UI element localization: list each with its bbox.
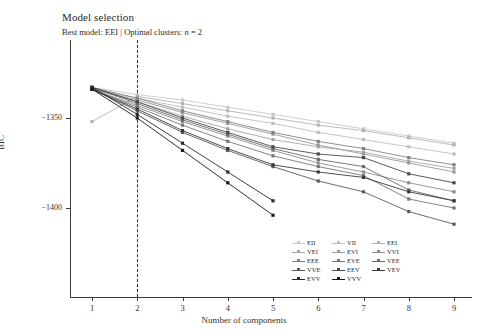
series-marker: [271, 138, 274, 141]
legend-item-eei[interactable]: EEI: [372, 239, 412, 247]
series-vev: [90, 88, 455, 203]
series-marker: [271, 122, 274, 125]
y-tick-label: −1400: [22, 203, 62, 212]
series-marker: [181, 116, 184, 119]
series-marker: [226, 109, 229, 112]
series-line: [92, 87, 454, 164]
legend-label: EVI: [347, 248, 358, 256]
series-marker: [362, 176, 365, 179]
legend-item-vei[interactable]: VEI: [292, 248, 332, 256]
series-marker: [317, 179, 320, 182]
series-marker: [317, 120, 320, 123]
series-marker: [181, 120, 184, 123]
series-marker: [226, 134, 229, 137]
series-marker: [226, 140, 229, 143]
series-marker: [90, 88, 93, 91]
x-tick-label: 9: [444, 303, 464, 313]
series-line: [92, 87, 454, 143]
series-line: [92, 87, 454, 200]
x-tick-label: 2: [127, 303, 147, 313]
series-marker: [90, 86, 93, 89]
chart-subtitle: Best model: EEI | Optimal clusters: n = …: [62, 27, 202, 37]
x-tick-label: 1: [82, 303, 102, 313]
x-tick-label: 8: [399, 303, 419, 313]
series-marker: [181, 111, 184, 114]
series-marker: [271, 199, 274, 202]
series-marker: [271, 145, 274, 148]
series-marker: [90, 88, 93, 91]
series-line: [92, 89, 454, 224]
series-marker: [362, 156, 365, 159]
series-marker: [226, 181, 229, 184]
series-marker: [407, 156, 410, 159]
legend-label: EII: [307, 239, 315, 247]
x-tick-label: 6: [308, 303, 328, 313]
legend-item-vee[interactable]: VEE: [372, 257, 412, 265]
series-marker: [362, 170, 365, 173]
x-tick-label: 5: [263, 303, 283, 313]
series-vii: [90, 88, 455, 156]
series-marker: [317, 140, 320, 143]
legend-item-vev[interactable]: VEV: [372, 266, 412, 274]
series-marker: [407, 190, 410, 193]
x-tick-mark: [228, 297, 229, 301]
series-marker: [407, 161, 410, 164]
series-marker: [362, 165, 365, 168]
subtitle-suffix: = 2: [189, 27, 202, 37]
series-vve: [90, 88, 455, 226]
series-marker: [271, 214, 274, 217]
series-marker: [317, 165, 320, 168]
series-vee: [90, 86, 455, 203]
legend-item-eev[interactable]: EEV: [332, 266, 372, 274]
series-marker: [90, 86, 93, 89]
series-marker: [271, 165, 274, 168]
series-marker: [407, 197, 410, 200]
legend-item-vve[interactable]: VVE: [292, 266, 332, 274]
series-marker: [362, 151, 365, 154]
legend-swatch-icon: [292, 267, 305, 274]
legend-label: VII: [347, 239, 356, 247]
legend-item-evv[interactable]: EVV: [292, 275, 332, 283]
legend-item-vvv[interactable]: VVV: [332, 275, 372, 283]
series-marker: [90, 86, 93, 89]
series-marker: [271, 154, 274, 157]
series-evv: [90, 86, 274, 203]
series-marker: [90, 120, 93, 123]
series-marker: [317, 131, 320, 134]
series-marker: [407, 188, 410, 191]
legend-item-vii[interactable]: VII: [332, 239, 372, 247]
legend-item-eii[interactable]: EII: [292, 239, 332, 247]
series-line: [92, 96, 454, 145]
y-tick-mark: [66, 118, 70, 119]
legend-item-vvi[interactable]: VVI: [372, 248, 412, 256]
x-tick-label: 3: [173, 303, 193, 313]
series-marker: [407, 145, 410, 148]
chart-canvas: Model selection Best model: EEI | Optima…: [0, 0, 488, 334]
series-marker: [226, 120, 229, 123]
series-marker: [226, 170, 229, 173]
series-marker: [407, 136, 410, 139]
series-marker: [271, 113, 274, 116]
legend-swatch-icon: [372, 240, 385, 247]
x-tick-mark: [409, 297, 410, 301]
series-marker: [362, 152, 365, 155]
series-marker: [271, 147, 274, 150]
legend-item-evi[interactable]: EVI: [332, 248, 372, 256]
legend-swatch-icon: [292, 276, 305, 283]
series-marker: [181, 109, 184, 112]
series-marker: [452, 223, 455, 226]
series-marker: [90, 88, 93, 91]
series-evi: [90, 88, 455, 174]
series-marker: [90, 86, 93, 89]
x-tick-label: 7: [354, 303, 374, 313]
y-axis-spine: [70, 40, 71, 297]
series-marker: [317, 145, 320, 148]
legend-item-eve[interactable]: EVE: [332, 257, 372, 265]
legend-swatch-icon: [292, 249, 305, 256]
series-marker: [90, 88, 93, 91]
series-marker: [226, 122, 229, 125]
y-tick-label: −1350: [22, 113, 62, 122]
series-marker: [181, 118, 184, 121]
legend-item-eee[interactable]: EEE: [292, 257, 332, 265]
x-tick-mark: [273, 297, 274, 301]
